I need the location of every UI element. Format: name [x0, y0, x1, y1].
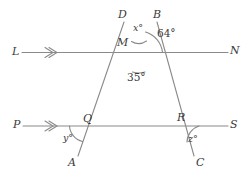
point-label-B: B [153, 9, 161, 20]
angle-label-35: 35° [127, 72, 146, 83]
point-label-D: D [118, 9, 127, 20]
point-label-C: C [196, 157, 204, 168]
point-label-Q: Q [83, 113, 92, 124]
angle-label-64: 64° [157, 28, 176, 39]
point-label-A: A [68, 157, 76, 168]
angle-label-z: z° [188, 134, 198, 144]
point-label-N: N [230, 45, 240, 56]
angle-label-x: x° [133, 23, 143, 33]
geometry-figure: L N P S D B M Q R A C x° 64° 35° y° z° [0, 0, 248, 175]
point-label-R: R [177, 112, 185, 123]
angle-label-y: y° [63, 133, 73, 143]
geometry-canvas [0, 0, 248, 175]
point-label-L: L [12, 46, 19, 57]
point-label-M: M [117, 37, 128, 48]
point-label-P: P [13, 119, 20, 130]
point-label-S: S [230, 119, 238, 130]
angle-arc-x [132, 41, 147, 43]
